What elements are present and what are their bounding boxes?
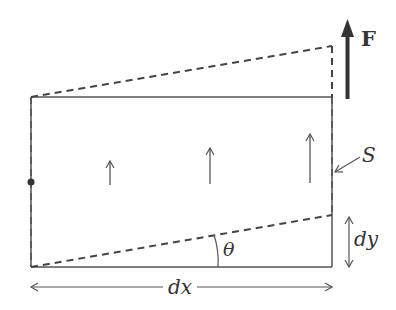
pivot-dot bbox=[28, 179, 35, 186]
force-label: F bbox=[361, 26, 376, 51]
force-arrow-head-icon bbox=[341, 19, 354, 37]
deformed-top-edge bbox=[31, 46, 332, 97]
shear-diagram: F S θ dy dx bbox=[0, 0, 396, 310]
dy-label: dy bbox=[354, 227, 379, 251]
dx-label: dx bbox=[168, 275, 192, 299]
original-rectangle bbox=[31, 97, 332, 267]
angle-arc bbox=[214, 235, 218, 267]
angle-label: θ bbox=[223, 238, 235, 260]
deformed-element bbox=[31, 46, 332, 267]
deformed-bottom-edge bbox=[31, 215, 332, 267]
force-arrow bbox=[341, 19, 354, 99]
interior-arrows bbox=[110, 134, 310, 185]
surface-leader-arrow bbox=[335, 157, 360, 172]
surface-label: S bbox=[362, 143, 376, 167]
